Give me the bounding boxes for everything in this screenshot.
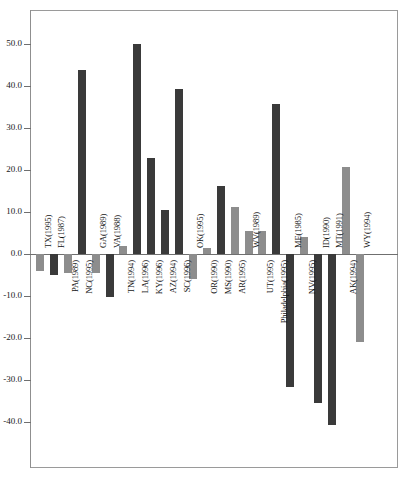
y-axis-tick-label: -30.0 xyxy=(0,375,22,384)
category-label: OR(1990) xyxy=(210,260,219,294)
y-axis-tick-label: -40.0 xyxy=(0,417,22,426)
bar-chart: 50.040.030.020.010.00.0-10.0-20.0-30.0-4… xyxy=(0,0,404,481)
category-label: PA(1989) xyxy=(71,260,80,292)
category-label: MT(1991) xyxy=(335,213,344,248)
bar[interactable] xyxy=(161,210,169,254)
y-axis-labels: 50.040.030.020.010.00.0-10.0-20.0-30.0-4… xyxy=(0,0,22,481)
category-label: LA(1996) xyxy=(141,260,150,293)
bar[interactable] xyxy=(272,104,280,254)
category-label: Philadelphia(1995) xyxy=(280,260,289,323)
category-label: KY(1996) xyxy=(155,260,164,294)
category-label: SC(1996) xyxy=(183,260,192,292)
y-axis-tick-label: -20.0 xyxy=(0,333,22,342)
category-label: TN(1994) xyxy=(127,260,136,293)
bar[interactable] xyxy=(147,158,155,254)
category-label: FL(1987) xyxy=(57,216,66,248)
bar[interactable] xyxy=(203,248,211,254)
bar[interactable] xyxy=(50,254,58,275)
category-label: MS(1990) xyxy=(224,260,233,294)
y-axis-tick-label: 20.0 xyxy=(0,165,22,174)
category-label: NV(1995) xyxy=(308,260,317,294)
category-label: NC(1995) xyxy=(85,260,94,294)
bar[interactable] xyxy=(106,254,114,297)
category-label: TX(1995) xyxy=(44,215,53,248)
y-axis-tick-label: 50.0 xyxy=(0,39,22,48)
category-label: VA(1988) xyxy=(113,215,122,248)
category-label: AK(1994) xyxy=(349,260,358,294)
category-label: AZ(1994) xyxy=(169,260,178,293)
y-axis-tick-label: 0.0 xyxy=(0,249,22,258)
category-label: WV(1989) xyxy=(252,212,261,248)
y-axis-tick-label: -10.0 xyxy=(0,291,22,300)
bar[interactable] xyxy=(231,207,239,254)
bar[interactable] xyxy=(36,254,44,271)
category-label: ME(1985) xyxy=(294,213,303,248)
bar[interactable] xyxy=(328,254,336,425)
y-axis-tick-label: 30.0 xyxy=(0,123,22,132)
category-label: WY(1994) xyxy=(363,212,372,248)
category-label: AR(1995) xyxy=(238,260,247,294)
bar[interactable] xyxy=(175,89,183,254)
y-axis-tick-label: 40.0 xyxy=(0,81,22,90)
category-label: UT(1995) xyxy=(266,260,275,293)
bar[interactable] xyxy=(78,70,86,254)
category-label: OK(1995) xyxy=(196,214,205,248)
category-label: GA(1989) xyxy=(99,214,108,248)
y-axis-tick-label: 10.0 xyxy=(0,207,22,216)
category-label: ID(1990) xyxy=(322,217,331,248)
bar[interactable] xyxy=(133,44,141,254)
bar[interactable] xyxy=(217,186,225,254)
